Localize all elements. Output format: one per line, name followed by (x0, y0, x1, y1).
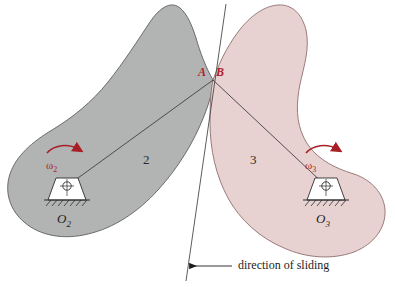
omega-3-subscript: 3 (312, 165, 316, 174)
pivot-o2-label: O2 (57, 212, 71, 229)
pivot-o3-subscript: 3 (325, 219, 330, 229)
figure-canvas: 2 3 ω2 ω3 O2 O3 A B direction of sliding (0, 0, 395, 287)
contact-point-a-label: A (198, 66, 206, 78)
body-3-shape (210, 5, 385, 257)
pivot-o3-label: O3 (316, 212, 330, 229)
pivot-o3-symbol: O (316, 211, 325, 226)
omega-2-subscript: 2 (53, 165, 57, 174)
omega-2-label: ω2 (46, 160, 57, 174)
body-2-label: 2 (143, 153, 150, 166)
body-3-label: 3 (250, 153, 257, 166)
sliding-direction-caption: direction of sliding (238, 259, 329, 271)
pivot-o2-subscript: 2 (66, 219, 71, 229)
contact-point-b-label: B (216, 66, 224, 78)
body-2-shape (8, 5, 213, 237)
diagram-svg (0, 0, 395, 287)
omega-3-label: ω3 (305, 160, 316, 174)
pivot-o2-symbol: O (57, 211, 66, 226)
